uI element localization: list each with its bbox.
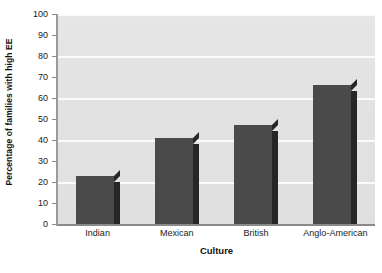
- y-axis-tick-label: 80: [38, 51, 48, 61]
- y-axis-tick-mark: [52, 203, 57, 204]
- y-axis-tick-label: 20: [38, 177, 48, 187]
- bar-face: [313, 85, 351, 224]
- y-axis-tick-label: 70: [38, 72, 48, 82]
- y-axis-tick-mark: [52, 77, 57, 78]
- bar-face: [155, 138, 193, 224]
- y-axis-tick-mark: [52, 140, 57, 141]
- plot-area: [58, 14, 375, 224]
- y-axis-tick-mark: [52, 224, 57, 225]
- y-axis-tick-mark: [52, 161, 57, 162]
- y-axis-tick-label: 40: [38, 135, 48, 145]
- x-axis-tick-label: Indian: [85, 228, 110, 238]
- y-axis-tick-label: 0: [43, 219, 48, 229]
- x-axis-tick-label: Mexican: [160, 228, 194, 238]
- bar: [313, 85, 351, 224]
- y-axis-tick-mark: [52, 35, 57, 36]
- y-axis-title-text: Percentage of families with high EE: [4, 38, 14, 185]
- y-axis-tick-mark: [52, 98, 57, 99]
- y-axis-tick-mark: [52, 14, 57, 15]
- bar-3d-side: [351, 91, 357, 224]
- bar-3d-side: [193, 144, 199, 224]
- bar-3d-side: [272, 131, 278, 224]
- y-axis-tick-mark: [52, 56, 57, 57]
- y-axis-tick-label: 30: [38, 156, 48, 166]
- bar: [76, 176, 114, 224]
- y-axis-tick-mark: [52, 119, 57, 120]
- y-axis-tick-labels: 0102030405060708090100: [22, 0, 52, 232]
- x-axis-line: [58, 224, 375, 226]
- x-axis-tick-label: British: [244, 228, 269, 238]
- bar-chart: Percentage of families with high EE 0102…: [0, 0, 382, 273]
- y-axis-tick-label: 90: [38, 30, 48, 40]
- y-axis-tick-label: 50: [38, 114, 48, 124]
- y-axis-title: Percentage of families with high EE: [0, 0, 18, 224]
- gridline: [58, 56, 375, 58]
- bar-3d-side: [114, 182, 120, 224]
- bar-face: [234, 125, 272, 224]
- y-axis-tick-label: 60: [38, 93, 48, 103]
- y-axis-tick-label: 10: [38, 198, 48, 208]
- x-axis-tick-labels: IndianMexicanBritishAnglo-American: [58, 228, 375, 244]
- x-axis-title: Culture: [58, 245, 375, 256]
- x-axis-tick-label: Anglo-American: [303, 228, 367, 238]
- gridline: [58, 14, 375, 16]
- y-axis-tick-mark: [52, 182, 57, 183]
- bar: [155, 138, 193, 224]
- y-axis-tick-label: 100: [33, 9, 48, 19]
- bar: [234, 125, 272, 224]
- bar-face: [76, 176, 114, 224]
